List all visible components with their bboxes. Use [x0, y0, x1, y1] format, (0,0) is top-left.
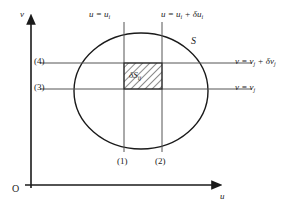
parameter-plane-diagram	[0, 0, 295, 209]
u-axis-label: u	[220, 192, 225, 201]
region-boundary-ellipse	[74, 33, 208, 149]
u-left-curve-label: u = ui	[89, 10, 110, 20]
v-axis-label: v	[20, 10, 24, 19]
cell-label-delta-s: δSij	[129, 71, 141, 81]
region-label-s: S	[191, 36, 196, 46]
v-lower-curve-label: v = vj	[235, 83, 255, 93]
u-right-curve-label: u = ui + δui	[161, 10, 203, 20]
edge-label-4: (4)	[34, 57, 45, 66]
origin-label: O	[12, 184, 19, 194]
edge-label-1: (1)	[117, 157, 128, 166]
v-upper-curve-label: v = vj + δvj	[235, 57, 276, 67]
edge-label-2: (2)	[155, 157, 166, 166]
edge-label-3: (3)	[34, 83, 45, 92]
